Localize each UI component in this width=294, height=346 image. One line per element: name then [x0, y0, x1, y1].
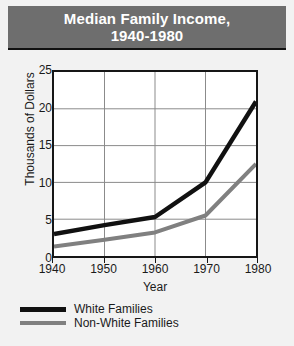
- x-tick-mark: [52, 258, 53, 263]
- x-axis-label: Year: [52, 280, 258, 294]
- x-tick-label: 1960: [132, 262, 178, 276]
- x-tick-label: 1970: [184, 262, 230, 276]
- x-tick-label: 1980: [235, 262, 281, 276]
- x-tick-mark: [155, 258, 156, 263]
- x-tick-mark: [207, 258, 208, 263]
- x-tick-mark: [257, 258, 258, 263]
- plot-svg: [54, 72, 256, 256]
- y-tick-label: 5: [18, 213, 52, 227]
- x-tick-label: 1940: [29, 262, 75, 276]
- y-tick-label: 25: [18, 63, 52, 77]
- legend-item-white-families: White Families: [20, 302, 179, 316]
- legend-label-non-white-families: Non-White Families: [74, 316, 179, 330]
- chart-title-line-2: 1940-1980: [111, 27, 184, 44]
- legend-swatch-non-white-families: [20, 321, 66, 325]
- y-tick-label: 20: [18, 101, 52, 115]
- y-tick-label: 10: [18, 176, 52, 190]
- chart-title-banner: Median Family Income, 1940-1980: [8, 6, 286, 50]
- legend-item-non-white-families: Non-White Families: [20, 316, 179, 330]
- y-tick-label: 15: [18, 138, 52, 152]
- x-tick-label: 1950: [81, 262, 127, 276]
- chart-legend: White Families Non-White Families: [20, 302, 179, 330]
- chart-figure: Median Family Income, 1940-1980 Thousand…: [0, 0, 294, 346]
- chart-title-line-1: Median Family Income,: [64, 10, 230, 27]
- x-tick-mark: [104, 258, 105, 263]
- plot-area: [52, 70, 258, 258]
- legend-swatch-white-families: [20, 307, 66, 312]
- legend-label-white-families: White Families: [74, 302, 153, 316]
